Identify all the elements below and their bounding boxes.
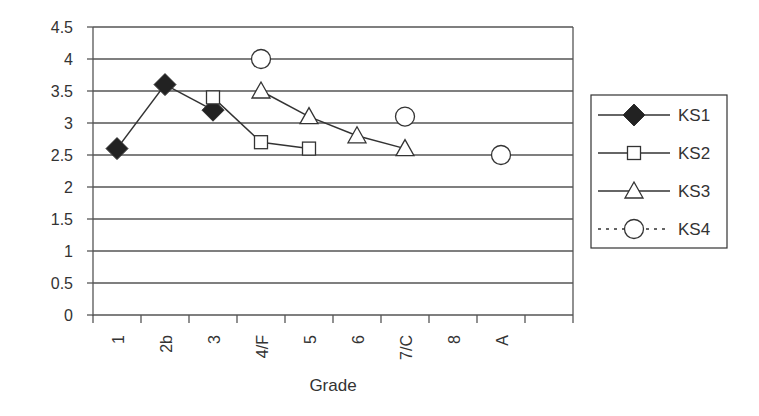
legend-label: KS3 [678, 182, 710, 201]
square-marker [255, 136, 268, 149]
x-tick-label: A [494, 335, 511, 346]
y-tick-label: 3 [64, 115, 73, 132]
x-tick-label: 2b [158, 335, 175, 353]
y-tick-label: 4.5 [51, 19, 73, 36]
legend: KS1KS2KS3KS4 [591, 95, 727, 248]
series-line [117, 85, 165, 149]
legend-label: KS1 [678, 106, 710, 125]
y-tick-label: 3.5 [51, 83, 73, 100]
circle-marker [396, 107, 415, 126]
x-tick-label: 7/C [398, 335, 415, 360]
x-tick-label: 4/F [254, 335, 271, 358]
square-marker [207, 91, 220, 104]
circle-marker [252, 50, 271, 69]
diamond-marker [106, 138, 128, 160]
y-tick-label: 4 [64, 51, 73, 68]
y-tick-label: 2 [64, 179, 73, 196]
y-tick-label: 0.5 [51, 275, 73, 292]
x-tick-label: 6 [350, 335, 367, 344]
square-marker [628, 147, 641, 160]
triangle-marker [348, 127, 366, 143]
y-tick-label: 1 [64, 243, 73, 260]
x-tick-label: 8 [446, 335, 463, 344]
legend-label: KS2 [678, 144, 710, 163]
y-axis: 00.511.522.533.544.5 [51, 19, 573, 324]
diamond-marker [154, 74, 176, 96]
y-tick-label: 1.5 [51, 211, 73, 228]
series-line [261, 142, 309, 148]
x-tick-label: 3 [206, 335, 223, 344]
square-marker [303, 142, 316, 155]
x-axis: 12b34/F567/C8A [93, 315, 573, 360]
x-tick-label: 5 [302, 335, 319, 344]
triangle-marker [252, 82, 270, 98]
legend-label: KS4 [678, 220, 710, 239]
y-tick-label: 2.5 [51, 147, 73, 164]
line-chart: 00.511.522.533.544.5 12b34/F567/C8A Grad… [0, 0, 759, 416]
y-tick-label: 0 [64, 307, 73, 324]
x-axis-title: Grade [309, 376, 356, 395]
series-ks1 [106, 74, 224, 160]
triangle-marker [300, 108, 318, 124]
series-line [213, 97, 261, 142]
circle-marker [492, 146, 511, 165]
x-tick-label: 1 [110, 335, 127, 344]
circle-marker [625, 220, 644, 239]
plot-series [106, 50, 511, 165]
